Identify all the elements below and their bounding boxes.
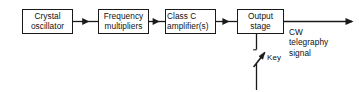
label-crystal-oscillator: Crystal oscillator [23, 11, 73, 31]
arrowhead-output-signal [346, 18, 354, 25]
label-cw-line1: CW [289, 27, 328, 37]
label-output-stage-line1: Output [238, 11, 284, 21]
label-output-stage: Output stage [238, 11, 284, 31]
arrowhead-amplifier-to-output [222, 18, 229, 25]
label-crystal-oscillator-line2: oscillator [23, 21, 73, 31]
arrowhead-osc-to-multipliers [82, 18, 89, 25]
label-class-c-amplifier-line2: amplifier(s) [167, 21, 217, 31]
label-cw-line3: signal [289, 48, 328, 58]
label-output-stage-line2: stage [238, 21, 284, 31]
label-frequency-multipliers: Frequency multipliers [99, 11, 149, 31]
block-diagram: Crystal oscillator Frequency multipliers… [0, 0, 359, 92]
label-cw-line2: telegraphy [289, 37, 328, 47]
label-frequency-multipliers-line1: Frequency [99, 11, 149, 21]
label-key: Key [267, 53, 281, 63]
label-class-c-amplifier: Class C amplifier(s) [167, 11, 217, 31]
label-cw-telegraphy-signal: CW telegraphy signal [289, 27, 328, 58]
label-class-c-amplifier-line1: Class C [167, 11, 217, 21]
arrowhead-multipliers-to-amplifier [153, 18, 160, 25]
label-crystal-oscillator-line1: Crystal [23, 11, 73, 21]
label-frequency-multipliers-line2: multipliers [99, 21, 149, 31]
